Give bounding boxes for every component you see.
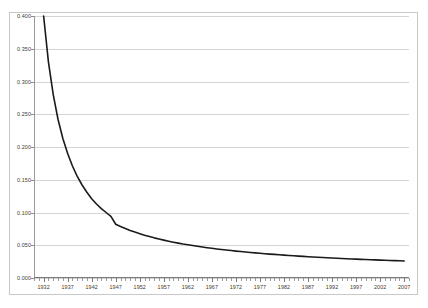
x-axis-minor-tick-mark [193, 278, 194, 281]
x-axis-tick-marks [34, 278, 409, 283]
x-axis-tick-label: 1977 [254, 284, 266, 290]
x-axis-major-tick-mark [68, 278, 69, 282]
x-axis-major-tick-mark [212, 278, 213, 282]
x-axis-minor-tick-mark [342, 278, 343, 281]
x-axis-minor-tick-mark [289, 278, 290, 281]
x-axis-minor-tick-mark [217, 278, 218, 281]
x-axis-major-tick-mark [356, 278, 357, 282]
x-axis-minor-tick-mark [371, 278, 372, 281]
y-axis-tick-label: 0.200 [17, 144, 31, 150]
x-axis-minor-tick-mark [313, 278, 314, 281]
x-axis-minor-tick-mark [231, 278, 232, 281]
x-axis-minor-tick-mark [145, 278, 146, 281]
x-axis-minor-tick-mark [39, 278, 40, 281]
x-axis-minor-tick-mark [101, 278, 102, 281]
x-axis-major-tick-mark [236, 278, 237, 282]
y-axis-tick-label: 0.300 [17, 79, 31, 85]
y-axis-tick-label: 0.350 [17, 46, 31, 52]
x-axis-minor-tick-mark [222, 278, 223, 281]
x-axis-minor-tick-mark [183, 278, 184, 281]
x-axis-minor-tick-mark [250, 278, 251, 281]
x-axis-minor-tick-mark [318, 278, 319, 281]
x-axis-minor-tick-mark [72, 278, 73, 281]
x-axis-minor-tick-mark [202, 278, 203, 281]
x-axis-minor-tick-mark [111, 278, 112, 281]
x-axis-tick-label: 1962 [182, 284, 194, 290]
y-axis-tick-labels: 0.0000.0500.1000.1500.2000.2500.3000.350… [0, 16, 31, 278]
x-axis-major-tick-mark [44, 278, 45, 282]
x-axis-minor-tick-mark [207, 278, 208, 281]
x-axis-minor-tick-mark [390, 278, 391, 281]
x-axis-major-tick-mark [404, 278, 405, 282]
y-axis-tick-label: 0.000 [17, 275, 31, 281]
x-axis-major-tick-mark [284, 278, 285, 282]
x-axis-minor-tick-mark [322, 278, 323, 281]
x-axis-minor-tick-mark [154, 278, 155, 281]
x-axis-major-tick-mark [140, 278, 141, 282]
x-axis-minor-tick-mark [246, 278, 247, 281]
x-axis-minor-tick-mark [265, 278, 266, 281]
x-axis-minor-tick-mark [197, 278, 198, 281]
x-axis-minor-tick-mark [294, 278, 295, 281]
x-axis-minor-tick-mark [34, 278, 35, 281]
x-axis-minor-tick-mark [347, 278, 348, 281]
series-polyline [44, 16, 405, 261]
x-axis-major-tick-mark [380, 278, 381, 282]
x-axis-minor-tick-mark [48, 278, 49, 281]
x-axis-minor-tick-mark [395, 278, 396, 281]
x-axis-minor-tick-mark [159, 278, 160, 281]
x-axis-minor-tick-mark [125, 278, 126, 281]
x-axis-minor-tick-mark [274, 278, 275, 281]
x-axis-minor-tick-mark [298, 278, 299, 281]
x-axis-minor-tick-mark [53, 278, 54, 281]
x-axis-minor-tick-mark [121, 278, 122, 281]
x-axis-minor-tick-mark [351, 278, 352, 281]
x-axis-minor-tick-mark [409, 278, 410, 281]
x-axis-minor-tick-mark [135, 278, 136, 281]
x-axis-major-tick-mark [308, 278, 309, 282]
y-axis-tick-label: 0.050 [17, 242, 31, 248]
x-axis-tick-label: 1982 [278, 284, 290, 290]
chart-root: 0.0000.0500.1000.1500.2000.2500.3000.350… [0, 0, 428, 308]
x-axis-major-tick-mark [332, 278, 333, 282]
x-axis-minor-tick-mark [87, 278, 88, 281]
x-axis-tick-label: 1932 [37, 284, 49, 290]
x-axis-tick-label: 1992 [326, 284, 338, 290]
x-axis-minor-tick-mark [361, 278, 362, 281]
x-axis-tick-label: 1987 [302, 284, 314, 290]
x-axis-tick-label: 1972 [230, 284, 242, 290]
x-axis-minor-tick-mark [270, 278, 271, 281]
y-axis-tick-label: 0.400 [17, 13, 31, 19]
x-axis-major-tick-mark [164, 278, 165, 282]
x-axis-major-tick-mark [260, 278, 261, 282]
x-axis-minor-tick-mark [97, 278, 98, 281]
x-axis-tick-label: 1937 [61, 284, 73, 290]
x-axis-tick-label: 1952 [134, 284, 146, 290]
x-axis-minor-tick-mark [169, 278, 170, 281]
data-series-line [34, 16, 409, 278]
x-axis-minor-tick-mark [303, 278, 304, 281]
x-axis-tick-label: 1957 [158, 284, 170, 290]
x-axis-major-tick-mark [92, 278, 93, 282]
x-axis-tick-label: 1947 [110, 284, 122, 290]
x-axis-minor-tick-mark [106, 278, 107, 281]
x-axis-minor-tick-mark [399, 278, 400, 281]
x-axis-tick-label: 1942 [85, 284, 97, 290]
x-axis-minor-tick-mark [178, 278, 179, 281]
x-axis-major-tick-mark [116, 278, 117, 282]
y-axis-tick-label: 0.250 [17, 111, 31, 117]
x-axis-minor-tick-mark [77, 278, 78, 281]
x-axis-minor-tick-mark [241, 278, 242, 281]
x-axis-tick-labels: 1932193719421947195219571962196719721977… [34, 284, 409, 294]
x-axis-minor-tick-mark [366, 278, 367, 281]
x-axis-minor-tick-mark [58, 278, 59, 281]
x-axis-minor-tick-mark [82, 278, 83, 281]
x-axis-minor-tick-mark [279, 278, 280, 281]
x-axis-tick-label: 2002 [374, 284, 386, 290]
x-axis-tick-label: 1997 [350, 284, 362, 290]
x-axis-minor-tick-mark [385, 278, 386, 281]
x-axis-minor-tick-mark [375, 278, 376, 281]
x-axis-minor-tick-mark [226, 278, 227, 281]
x-axis-major-tick-mark [188, 278, 189, 282]
x-axis-minor-tick-mark [255, 278, 256, 281]
